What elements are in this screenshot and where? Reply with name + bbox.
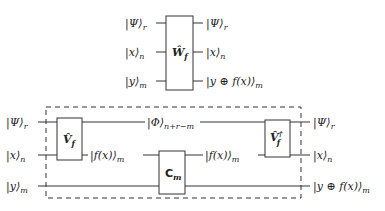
top-input-x: |x⟩n — [125, 46, 144, 61]
top-output-x: |x⟩n — [206, 46, 225, 61]
w-gate-label: Ŵf — [172, 45, 189, 61]
top-output-y-xor-fx: |y ⊕ f(x)⟩m — [206, 75, 263, 90]
top-input-y: |y⟩m — [125, 75, 147, 90]
bottom-input-y: |y⟩m — [6, 180, 28, 195]
circuit-diagram: Ŵf |Ψ⟩r |x⟩n |y⟩m |Ψ⟩r |x⟩n |y ⊕ f(x)⟩m … — [0, 0, 385, 211]
phi-label: |Φ⟩n+r−m — [147, 116, 194, 131]
bottom-output-y-xor-fx: |y ⊕ f(x)⟩m — [313, 180, 370, 195]
fx-left-label: |f(x)⟩m — [90, 149, 125, 164]
bottom-output-psi: |Ψ⟩r — [313, 116, 336, 131]
bottom-output-x: |x⟩n — [313, 149, 332, 164]
bottom-input-psi: |Ψ⟩r — [6, 116, 29, 131]
bottom-circuit — [38, 107, 310, 198]
top-output-psi: |Ψ⟩r — [206, 17, 229, 32]
fx-right-label: |f(x)⟩m — [205, 149, 240, 164]
bottom-input-x: |x⟩n — [6, 149, 25, 164]
top-input-psi: |Ψ⟩r — [125, 17, 148, 32]
